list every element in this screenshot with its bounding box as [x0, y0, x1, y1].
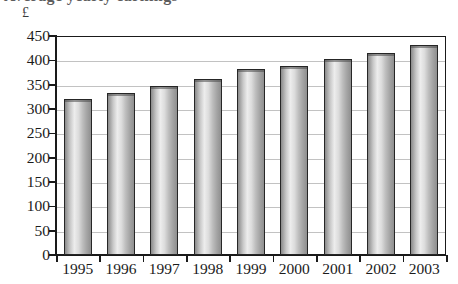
x-tick-label-2000: 2000: [279, 260, 310, 278]
x-tick-label-2002: 2002: [366, 260, 397, 278]
bar-chart-figure: Average yearly earnings £ 05010015020025…: [0, 0, 458, 284]
x-tick-label-1997: 1997: [149, 260, 180, 278]
x-axis-labels-group: 199519961997199819992000200120022003: [0, 0, 458, 284]
x-tick-label-2003: 2003: [409, 260, 440, 278]
x-tick-label-1999: 1999: [236, 260, 267, 278]
x-tick-label-1995: 1995: [62, 260, 93, 278]
x-tick-label-1998: 1998: [192, 260, 223, 278]
x-tick-label-2001: 2001: [322, 260, 353, 278]
x-tick-label-1996: 1996: [106, 260, 137, 278]
